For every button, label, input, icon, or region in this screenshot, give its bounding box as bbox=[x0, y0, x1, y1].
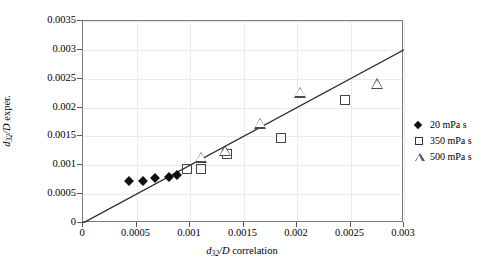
y-axis-title-sub: 32 bbox=[5, 134, 14, 142]
x-axis-tick-label: 0.0005 bbox=[121, 227, 150, 238]
x-axis-title-tail: correlation bbox=[230, 245, 278, 256]
data-point-open-square bbox=[276, 133, 286, 143]
y-axis-title-d: d bbox=[1, 141, 12, 146]
legend-label: 350 mPa s bbox=[430, 133, 472, 149]
legend-item: 20 mPa s bbox=[415, 117, 472, 133]
x-axis-tick-label: 0.0015 bbox=[228, 227, 257, 238]
y-axis-tick-label: 0.003 bbox=[52, 44, 76, 55]
x-axis-title-sub: 32 bbox=[212, 249, 220, 258]
x-axis-tick-label: 0.002 bbox=[284, 227, 308, 238]
y-axis-tick-label: 0.001 bbox=[52, 159, 76, 170]
data-point-open-triangle bbox=[254, 118, 266, 129]
legend-marker-icon bbox=[415, 137, 428, 145]
open-triangle-icon bbox=[415, 153, 425, 161]
y-axis-tick-label: 0 bbox=[71, 217, 76, 228]
data-point-open-square bbox=[182, 164, 192, 174]
legend-item: 350 mPa s bbox=[415, 133, 472, 149]
open-square-icon bbox=[415, 137, 423, 145]
legend-item: 500 mPa s bbox=[415, 149, 472, 165]
data-point-open-triangle bbox=[195, 152, 207, 163]
legend-label: 20 mPa s bbox=[430, 117, 467, 133]
y-axis-title: d32/D exper. bbox=[1, 95, 14, 146]
y-axis-tick-label: 0.0025 bbox=[47, 73, 76, 84]
chart-root: 00.00050.0010.00150.0020.00250.0030.0035… bbox=[0, 0, 485, 269]
x-axis-tick-label: 0.001 bbox=[177, 227, 201, 238]
parity-line bbox=[83, 21, 404, 223]
legend: 20 mPa s350 mPa s500 mPa s bbox=[415, 117, 472, 165]
legend-label: 500 mPa s bbox=[430, 149, 472, 165]
x-axis-tick-label: 0.003 bbox=[391, 227, 415, 238]
x-axis-title: d32/D correlation bbox=[206, 245, 277, 258]
gridline-vertical bbox=[404, 21, 405, 221]
x-axis-tick-label: 0.0025 bbox=[335, 227, 364, 238]
y-axis-title-rest: /D bbox=[1, 123, 12, 134]
y-axis-tick-label: 0.0015 bbox=[47, 130, 76, 141]
x-axis-title-rest: /D bbox=[219, 245, 230, 256]
y-axis-tick-label: 0.002 bbox=[52, 102, 76, 113]
data-point-open-square bbox=[196, 164, 206, 174]
data-point-open-triangle bbox=[371, 78, 383, 89]
legend-marker-icon bbox=[415, 153, 428, 161]
plot-area bbox=[82, 20, 403, 222]
x-axis-tick-label: 0 bbox=[79, 227, 84, 238]
y-axis-tick-label: 0.0005 bbox=[47, 188, 76, 199]
filled-diamond-icon bbox=[414, 121, 422, 129]
y-axis-title-tail: exper. bbox=[1, 95, 12, 123]
data-point-open-triangle bbox=[294, 87, 306, 98]
data-point-open-square bbox=[340, 95, 350, 105]
legend-marker-icon bbox=[415, 122, 428, 128]
data-point-open-triangle bbox=[219, 145, 231, 156]
y-axis-tick-label: 0.0035 bbox=[47, 15, 76, 26]
